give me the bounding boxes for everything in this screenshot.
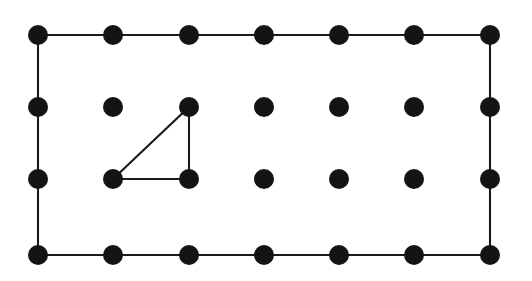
lattice-dot (329, 97, 349, 117)
lattice-dot (28, 169, 48, 189)
lattice-dot (254, 97, 274, 117)
lattice-dot (179, 97, 199, 117)
lattice-dot (103, 97, 123, 117)
lattice-dot (28, 97, 48, 117)
lattice-dot (404, 97, 424, 117)
lattice-dot (480, 245, 500, 265)
lattice-dot (179, 169, 199, 189)
lattice-dot (103, 245, 123, 265)
lattice-dot (28, 25, 48, 45)
lattice-dot (28, 245, 48, 265)
lattice-dot (254, 25, 274, 45)
lattice-dot (480, 97, 500, 117)
lattice-dot (329, 245, 349, 265)
lattice-dot (179, 25, 199, 45)
lattice-dot (329, 169, 349, 189)
lattice-dot (404, 25, 424, 45)
lattice-dot (103, 169, 123, 189)
lattice-diagram-canvas (0, 0, 532, 281)
lattice-dot (254, 169, 274, 189)
lattice-dot (480, 169, 500, 189)
lattice-dot (103, 25, 123, 45)
lattice-dot (179, 245, 199, 265)
lattice-dot (254, 245, 274, 265)
lattice-dot (329, 25, 349, 45)
lattice-dot (404, 245, 424, 265)
lattice-dot (404, 169, 424, 189)
lattice-figure: Geoboard lattice with rectangle outline … (0, 0, 532, 281)
lattice-dot (480, 25, 500, 45)
